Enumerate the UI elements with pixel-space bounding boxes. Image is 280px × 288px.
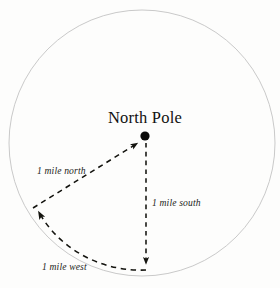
diagram-canvas xyxy=(0,0,280,288)
globe-circle xyxy=(9,10,275,276)
north-pole-diagram: North Pole 1 mile north 1 mile south 1 m… xyxy=(0,0,280,288)
west-leg-label: 1 mile west xyxy=(42,262,87,272)
page-title: North Pole xyxy=(108,110,182,127)
south-leg-label: 1 mile south xyxy=(152,198,201,208)
north-pole-dot xyxy=(140,131,149,140)
north-leg-label: 1 mile north xyxy=(37,166,86,176)
